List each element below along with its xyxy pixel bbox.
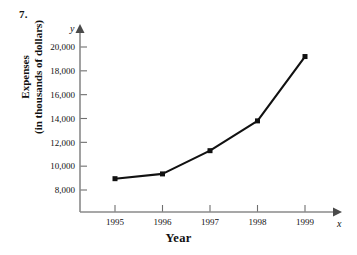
y-axis-arrow-icon: [76, 24, 85, 33]
y-axis-tick-label: 14,000: [50, 114, 75, 124]
data-point-marker: [255, 118, 260, 123]
x-axis-tick-label: 1995: [106, 217, 125, 227]
y-axis-tick-label: 8,000: [55, 185, 76, 195]
data-point-marker: [113, 176, 118, 181]
data-point-marker: [303, 54, 308, 59]
x-axis-tick-label: 1999: [296, 217, 315, 227]
x-axis-tick-label: 1997: [201, 217, 220, 227]
y-axis-tick-label: 10,000: [50, 161, 75, 171]
y-axis-tick-label: 18,000: [50, 66, 75, 76]
graph-figure: 7. Expenses (in thousands of dollars) 8,…: [0, 0, 357, 255]
x-axis-tick-label: 1998: [249, 217, 268, 227]
x-axis-variable-label: x: [336, 218, 342, 229]
x-axis-tick-label: 1996: [154, 217, 173, 227]
y-axis-ticks: 8,00010,00012,00014,00016,00018,00020,00…: [50, 42, 87, 195]
line-chart: 8,00010,00012,00014,00016,00018,00020,00…: [0, 0, 357, 255]
data-point-group: [113, 54, 308, 181]
x-axis-ticks: 19951996199719981999: [106, 205, 315, 227]
y-axis-tick-label: 20,000: [50, 42, 75, 52]
x-axis-arrow-icon: [333, 208, 342, 217]
x-axis-title: Year: [0, 231, 357, 246]
y-axis-tick-label: 16,000: [50, 90, 75, 100]
y-axis-tick-label: 12,000: [50, 138, 75, 148]
data-line: [115, 57, 305, 179]
y-axis-variable-label: y: [69, 23, 75, 34]
data-point-marker: [208, 148, 213, 153]
data-point-marker: [160, 171, 165, 176]
